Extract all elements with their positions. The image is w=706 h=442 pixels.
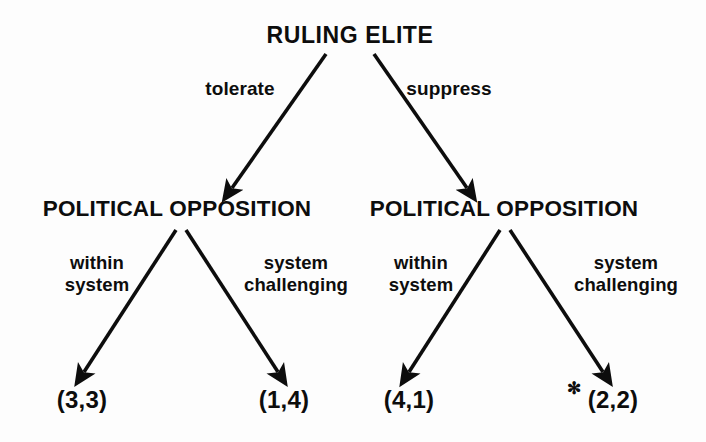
outcome-payoff-3-3: (3,3) bbox=[57, 386, 107, 414]
outcome-payoff-4-1: (4,1) bbox=[384, 386, 434, 414]
equilibrium-star-icon: ✻ bbox=[567, 380, 581, 397]
arrow-suppress bbox=[374, 54, 467, 188]
node-political-opposition-right: POLITICAL OPPOSITION bbox=[370, 196, 639, 222]
root-node-ruling-elite: RULING ELITE bbox=[267, 22, 434, 49]
node-political-opposition-left: POLITICAL OPPOSITION bbox=[43, 196, 312, 222]
edge-label-line: challenging bbox=[244, 274, 348, 296]
edge-label-within-system-right: within system bbox=[389, 252, 453, 296]
edge-label-tolerate: tolerate bbox=[205, 78, 274, 100]
outcome-payoff-2-2: (2,2) bbox=[588, 386, 638, 414]
game-tree-diagram: RULING ELITE POLITICAL OPPOSITION POLITI… bbox=[0, 0, 706, 442]
outcome-payoff-1-4: (1,4) bbox=[259, 386, 309, 414]
edge-label-line: system bbox=[574, 252, 678, 274]
edge-label-line: within bbox=[65, 252, 129, 274]
arrow-tolerate bbox=[232, 54, 326, 188]
edge-label-line: system bbox=[244, 252, 348, 274]
edge-label-line: system bbox=[65, 274, 129, 296]
edge-label-suppress: suppress bbox=[406, 78, 491, 100]
edge-label-system-challenging-right: system challenging bbox=[574, 252, 678, 296]
edge-label-within-system-left: within system bbox=[65, 252, 129, 296]
edge-label-line: within bbox=[389, 252, 453, 274]
edge-label-line: system bbox=[389, 274, 453, 296]
edge-label-system-challenging-left: system challenging bbox=[244, 252, 348, 296]
edge-label-line: challenging bbox=[574, 274, 678, 296]
